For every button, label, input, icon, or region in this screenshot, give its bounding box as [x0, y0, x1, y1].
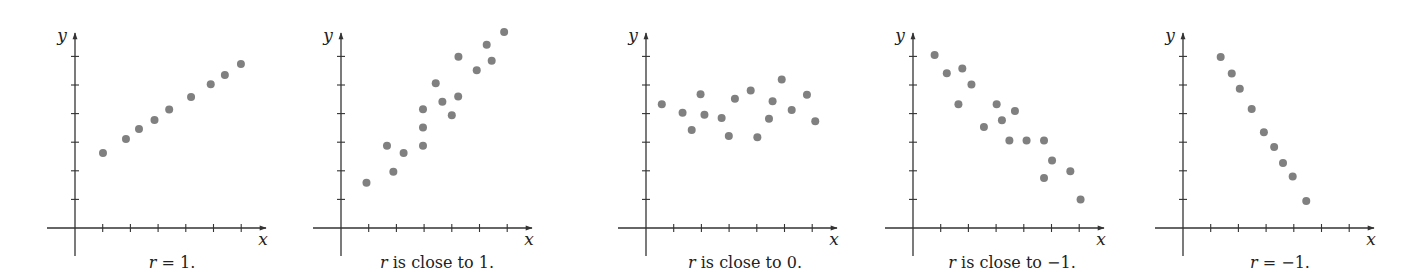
data-point — [221, 71, 229, 79]
data-point — [135, 125, 143, 133]
data-point — [1289, 173, 1297, 181]
data-point — [753, 133, 761, 141]
data-point — [1260, 128, 1268, 136]
data-point — [803, 91, 811, 99]
data-point — [769, 97, 777, 105]
data-point — [383, 142, 391, 150]
x-axis-label: x — [1096, 229, 1106, 249]
data-point — [1040, 174, 1048, 182]
data-point — [389, 168, 397, 176]
data-point — [993, 100, 1001, 108]
data-point — [967, 80, 975, 88]
data-point — [362, 179, 370, 187]
correlation-caption: r is close to 1. — [380, 253, 494, 272]
data-point — [811, 117, 819, 125]
data-point — [207, 80, 215, 88]
data-point — [679, 109, 687, 117]
data-point — [718, 114, 726, 122]
data-point — [99, 149, 107, 157]
correlation-caption: r = 1. — [149, 253, 196, 272]
data-point — [658, 100, 666, 108]
data-point — [438, 98, 446, 106]
y-axis-label: y — [322, 25, 333, 45]
data-point — [419, 105, 427, 113]
data-point — [747, 86, 755, 94]
scatter-plot-2: yxr is close to 1. — [313, 25, 534, 272]
data-point — [778, 76, 786, 84]
scatter-plot-3: yxr is close to 0. — [618, 25, 839, 272]
data-point — [943, 69, 951, 77]
y-axis-label: y — [627, 25, 638, 45]
data-point — [432, 79, 440, 87]
data-point — [122, 135, 130, 143]
data-point — [165, 106, 173, 114]
data-point — [448, 111, 456, 119]
data-point — [1302, 197, 1310, 205]
data-point — [765, 115, 773, 123]
data-point — [788, 106, 796, 114]
y-axis-label: y — [894, 25, 905, 45]
data-point — [187, 93, 195, 101]
data-point — [1077, 195, 1085, 203]
data-point — [419, 124, 427, 132]
data-point — [998, 116, 1006, 124]
data-point — [688, 126, 696, 134]
y-axis-label: y — [1164, 25, 1175, 45]
data-point — [1217, 53, 1225, 61]
data-point — [1005, 136, 1013, 144]
correlation-caption: r is close to 0. — [688, 253, 802, 272]
scatter-plot-1: yxr = 1. — [47, 25, 268, 272]
data-point — [1279, 159, 1287, 167]
data-point — [1248, 105, 1256, 113]
data-point — [697, 90, 705, 98]
data-point — [150, 116, 158, 124]
correlation-caption: r is close to −1. — [948, 253, 1075, 272]
x-axis-label: x — [829, 229, 839, 249]
data-point — [1023, 136, 1031, 144]
data-point — [400, 149, 408, 157]
data-point — [488, 57, 496, 65]
data-point — [1048, 157, 1056, 165]
data-point — [1040, 136, 1048, 144]
scatter-plot-5: yxr = −1. — [1155, 25, 1376, 272]
data-point — [483, 41, 491, 49]
correlation-caption: r = −1. — [1250, 253, 1310, 272]
x-axis-label: x — [1366, 229, 1376, 249]
x-axis-label: x — [258, 229, 268, 249]
correlation-scatter-figure: yxr = 1.yxr is close to 1.yxr is close t… — [0, 0, 1413, 278]
data-point — [1066, 167, 1074, 175]
x-axis-label: x — [524, 229, 534, 249]
data-point — [700, 111, 708, 119]
data-point — [958, 64, 966, 72]
data-point — [1011, 107, 1019, 115]
scatter-plot-4: yxr is close to −1. — [885, 25, 1106, 272]
data-point — [454, 92, 462, 100]
y-axis-label: y — [56, 25, 67, 45]
data-point — [454, 53, 462, 61]
data-point — [931, 51, 939, 59]
data-point — [473, 66, 481, 74]
data-point — [1236, 85, 1244, 93]
data-point — [980, 123, 988, 131]
scatter-plots-svg: yxr = 1.yxr is close to 1.yxr is close t… — [0, 0, 1413, 278]
data-point — [419, 142, 427, 150]
data-point — [725, 132, 733, 140]
data-point — [500, 28, 508, 36]
data-point — [731, 95, 739, 103]
data-point — [1270, 143, 1278, 151]
data-point — [1228, 70, 1236, 78]
data-point — [237, 60, 245, 68]
data-point — [954, 100, 962, 108]
